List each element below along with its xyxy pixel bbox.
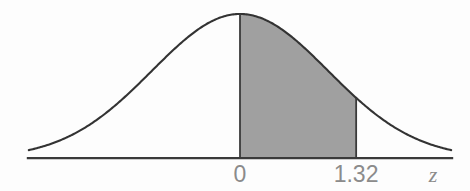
tick-label-zero: 0 [234, 161, 247, 188]
normal-curve-figure: 0 1.32 z [0, 0, 470, 191]
tick-label-z-value: 1.32 [334, 161, 379, 188]
axis-variable-label: z [429, 162, 438, 188]
shaded-area-region [240, 10, 356, 158]
